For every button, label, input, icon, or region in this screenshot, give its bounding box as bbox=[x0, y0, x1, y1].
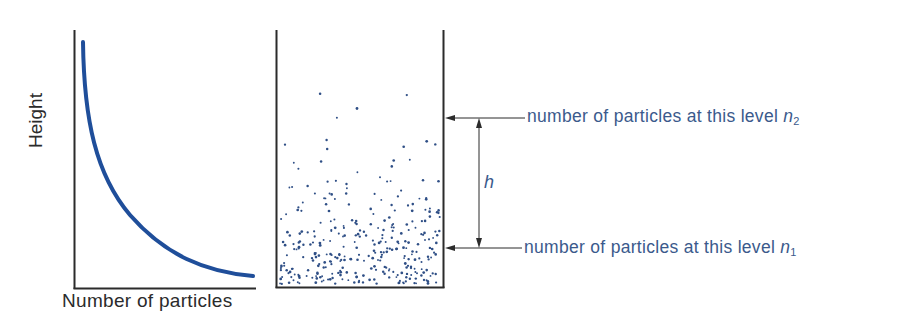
decay-curve bbox=[83, 42, 253, 276]
lower-level-label: number of particles at this level n1 bbox=[524, 237, 797, 258]
height-dimension-arrow bbox=[476, 118, 482, 248]
upper-level-subscript: 2 bbox=[793, 115, 799, 127]
lower-level-variable: n bbox=[780, 237, 790, 257]
diagram-canvas bbox=[0, 0, 900, 329]
particle-container bbox=[276, 30, 445, 288]
x-axis-label: Number of particles bbox=[62, 290, 232, 312]
upper-level-arrow bbox=[445, 115, 525, 121]
lower-level-text: number of particles at this level bbox=[524, 237, 780, 257]
lower-level-arrow bbox=[445, 245, 522, 251]
upper-level-variable: n bbox=[783, 106, 793, 126]
height-label: h bbox=[484, 172, 494, 193]
upper-level-text: number of particles at this level bbox=[527, 106, 783, 126]
upper-level-label: number of particles at this level n2 bbox=[527, 106, 800, 127]
y-axis-label: Height bbox=[25, 93, 47, 148]
lower-level-subscript: 1 bbox=[790, 246, 796, 258]
particle-dots bbox=[279, 93, 441, 286]
